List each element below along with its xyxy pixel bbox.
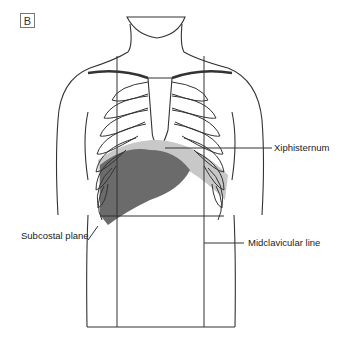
left-clavicle [88,71,148,78]
neck-right [181,24,228,68]
chin-outline [127,17,185,38]
liver [100,149,190,225]
torso-diagram [0,0,341,353]
label-xiphisternum: Xiphisternum [274,142,329,153]
label-subcostal-plane: Subcostal plane [21,230,89,241]
left-arm-inner [85,112,88,180]
right-arm-inner [232,112,235,180]
label-midclavicular-line: Midclavicular line [248,237,320,248]
right-shoulder [228,68,264,215]
right-waist [234,215,235,327]
subcostal-pointer [88,226,98,240]
neck-left [90,24,131,68]
sternum [148,78,172,147]
right-clavicle [172,71,232,78]
